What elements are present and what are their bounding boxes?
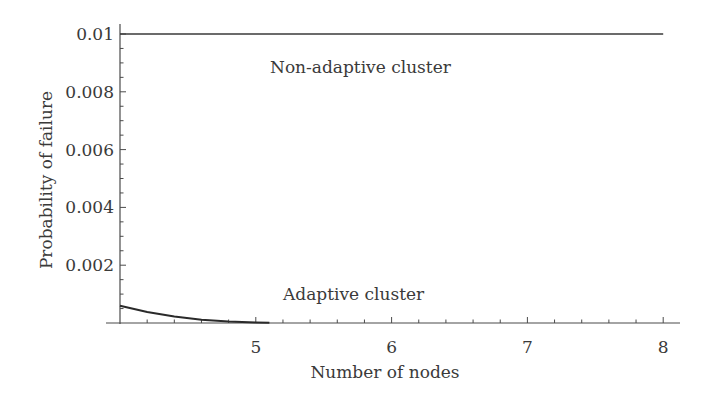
y-tick-label: 0.006 <box>65 140 114 160</box>
y-tick-label: 0.002 <box>65 255 114 275</box>
x-axis-label: Number of nodes <box>310 362 459 382</box>
chart: 0.0020.0040.0060.0080.015678Non-adaptive… <box>0 0 706 397</box>
series-adaptive-curve <box>120 306 269 323</box>
plot-area: 0.0020.0040.0060.0080.015678Non-adaptive… <box>65 24 680 357</box>
x-tick-label: 5 <box>250 337 261 357</box>
x-tick-label: 7 <box>522 337 533 357</box>
x-tick-label: 6 <box>386 337 397 357</box>
annotation-adaptive: Adaptive cluster <box>282 284 425 304</box>
annotation-non-adaptive: Non-adaptive cluster <box>270 57 452 77</box>
y-tick-label: 0.008 <box>65 82 114 102</box>
x-tick-label: 8 <box>658 337 669 357</box>
y-tick-label: 0.004 <box>65 197 114 217</box>
y-tick-label: 0.01 <box>76 24 114 44</box>
y-axis-label: Probability of failure <box>36 91 56 269</box>
